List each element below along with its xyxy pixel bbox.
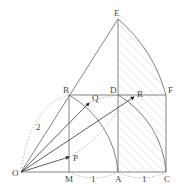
label-r: R	[137, 89, 143, 99]
label-a: A	[115, 174, 122, 184]
measure-ma: 1	[91, 174, 96, 184]
dashed-curve-p	[69, 110, 118, 157]
label-f: F	[168, 85, 173, 95]
label-p: P	[73, 153, 78, 163]
label-d: D	[110, 85, 117, 95]
label-m: M	[65, 174, 73, 184]
label-o: O	[12, 168, 19, 178]
label-e: E	[114, 8, 120, 18]
label-q: Q	[92, 93, 99, 103]
measure-ac: 1	[142, 174, 147, 184]
measure-ob: 2	[36, 122, 41, 132]
label-b: B	[63, 85, 69, 95]
label-c: C	[164, 174, 170, 184]
geometry-diagram: O M A C B D F E Q R P 2 1 1	[0, 0, 184, 192]
